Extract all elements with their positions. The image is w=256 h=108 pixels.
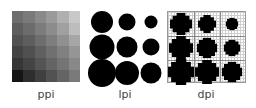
ppi-label: ppi	[16, 88, 76, 101]
printer-dot-cluster	[195, 60, 219, 84]
printer-dot-cluster	[224, 40, 241, 57]
printer-dot-cluster	[222, 62, 243, 83]
pixel-cell	[23, 46, 34, 58]
halftone-dot	[91, 11, 113, 33]
pixel-cell	[57, 35, 68, 47]
pixel-cell	[46, 58, 57, 70]
printer-dot-cluster	[169, 36, 193, 60]
dpi-printer-dots	[167, 11, 246, 83]
dpi-cell-divider	[220, 12, 221, 82]
halftone-dot	[88, 59, 116, 87]
printer-dot-cluster	[198, 15, 216, 33]
halftone-dot	[143, 39, 160, 56]
pixel-cell	[69, 35, 80, 47]
printer-dot-cluster	[168, 59, 194, 85]
pixel-cell	[35, 46, 46, 58]
pixel-cell	[23, 11, 34, 23]
pixel-cell	[46, 46, 57, 58]
pixel-cell	[69, 70, 80, 82]
pixel-cell	[69, 58, 80, 70]
pixel-cell	[69, 23, 80, 35]
pixel-cell	[57, 70, 68, 82]
pixel-cell	[35, 23, 46, 35]
halftone-dot	[119, 14, 136, 31]
halftone-dot	[90, 35, 115, 60]
pixel-cell	[57, 46, 68, 58]
pixel-cell	[57, 58, 68, 70]
printer-dot-cluster	[226, 18, 239, 31]
pixel-cell	[23, 35, 34, 47]
pixel-cell	[12, 23, 23, 35]
halftone-dot	[141, 63, 162, 84]
pixel-cell	[35, 35, 46, 47]
ppi-pixel-grid	[12, 11, 80, 82]
lpi-halftone-dots	[88, 9, 162, 85]
halftone-dot	[115, 61, 139, 85]
pixel-cell	[35, 11, 46, 23]
pixel-cell	[12, 11, 23, 23]
dpi-cell-divider	[194, 12, 195, 82]
pixel-cell	[12, 46, 23, 58]
dpi-label: dpi	[176, 88, 236, 101]
pixel-cell	[23, 58, 34, 70]
pixel-cell	[46, 23, 57, 35]
pixel-cell	[12, 58, 23, 70]
pixel-cell	[23, 23, 34, 35]
pixel-cell	[46, 35, 57, 47]
printer-dot-cluster	[170, 13, 192, 35]
halftone-dot	[117, 37, 138, 58]
halftone-dot	[145, 16, 158, 29]
pixel-cell	[12, 70, 23, 82]
pixel-cell	[23, 70, 34, 82]
pixel-cell	[35, 70, 46, 82]
pixel-cell	[69, 46, 80, 58]
printer-dot-cluster	[197, 38, 218, 59]
pixel-cell	[12, 35, 23, 47]
pixel-cell	[46, 70, 57, 82]
pixel-cell	[57, 11, 68, 23]
pixel-cell	[57, 23, 68, 35]
lpi-label: lpi	[95, 88, 155, 101]
pixel-cell	[35, 58, 46, 70]
pixel-cell	[69, 11, 80, 23]
pixel-cell	[46, 11, 57, 23]
